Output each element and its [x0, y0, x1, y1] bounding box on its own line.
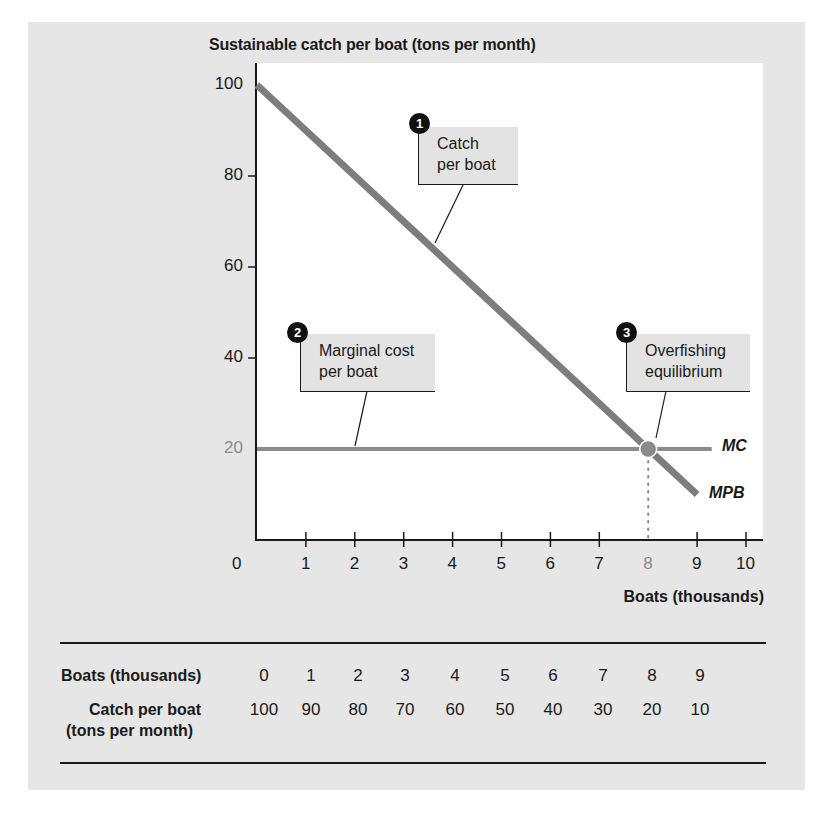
callout-1-line-1: Catch — [437, 133, 510, 154]
table-row-catch-sublabel: (tons per month) — [66, 722, 193, 740]
table-top-rule — [60, 642, 766, 644]
y-tick-label: 40 — [224, 347, 243, 367]
x-tick-label: 5 — [497, 554, 506, 574]
x-tick-label: 3 — [399, 554, 408, 574]
mc-label: MC — [722, 437, 747, 455]
callout-1-line-2: per boat — [437, 154, 510, 175]
callout-3-badge: 3 — [616, 322, 637, 343]
callout-2-badge: 2 — [287, 322, 308, 343]
table-cell-boats: 3 — [385, 666, 425, 686]
x-tick-label: 2 — [350, 554, 359, 574]
leader-line-1 — [435, 185, 463, 243]
table-row-boats-label: Boats (thousands) — [61, 667, 201, 685]
table-cell-boats: 2 — [338, 666, 378, 686]
table-cell-catch: 60 — [435, 700, 475, 720]
callout-3-line-2: equilibrium — [645, 361, 742, 382]
table-cell-boats: 8 — [632, 666, 672, 686]
table-cell-boats: 6 — [533, 666, 573, 686]
table-cell-boats: 1 — [291, 666, 331, 686]
x-tick-label: 1 — [301, 554, 310, 574]
x-tick-label: 4 — [448, 554, 457, 574]
table-cell-boats: 5 — [485, 666, 525, 686]
table-cell-catch: 30 — [583, 700, 623, 720]
callout-overfishing-equilibrium: Overfishing equilibrium — [626, 334, 750, 392]
callout-catch-per-boat: Catch per boat — [418, 127, 518, 185]
leader-line-2 — [355, 391, 367, 446]
x-tick-label: 0 — [232, 554, 241, 574]
table-cell-catch: 70 — [385, 700, 425, 720]
y-tick-label: 80 — [224, 165, 243, 185]
callout-marginal-cost: Marginal cost per boat — [300, 334, 435, 392]
x-tick-label: 10 — [736, 554, 755, 574]
y-axis-title: Sustainable catch per boat (tons per mon… — [209, 36, 536, 54]
table-cell-boats: 7 — [583, 666, 623, 686]
x-tick-label: 8 — [643, 554, 652, 574]
x-tick-label: 7 — [594, 554, 603, 574]
equilibrium-point — [640, 441, 657, 458]
table-row-catch-label: Catch per boat — [89, 701, 201, 719]
callout-1-badge: 1 — [409, 113, 430, 134]
table-cell-catch: 100 — [244, 700, 284, 720]
table-cell-boats: 0 — [244, 666, 284, 686]
table-cell-catch: 50 — [485, 700, 525, 720]
callout-3-line-1: Overfishing — [645, 340, 742, 361]
table-cell-catch: 80 — [338, 700, 378, 720]
y-tick-label: 60 — [224, 256, 243, 276]
leader-line-3 — [656, 391, 666, 438]
table-cell-catch: 10 — [680, 700, 720, 720]
table-bottom-rule — [60, 762, 766, 764]
y-tick-label: 100 — [215, 74, 243, 94]
y-ticks — [248, 176, 256, 358]
table-cell-catch: 40 — [533, 700, 573, 720]
x-tick-label: 6 — [545, 554, 554, 574]
table-cell-boats: 9 — [680, 666, 720, 686]
callout-2-line-1: Marginal cost — [319, 340, 427, 361]
mpb-label: MPB — [709, 484, 745, 502]
table-cell-catch: 20 — [632, 700, 672, 720]
table-cell-catch: 90 — [291, 700, 331, 720]
y-tick-label: 20 — [224, 438, 243, 458]
table-cell-boats: 4 — [435, 666, 475, 686]
x-tick-label: 9 — [692, 554, 701, 574]
callout-2-line-2: per boat — [319, 361, 427, 382]
x-axis-title: Boats (thousands) — [624, 588, 764, 606]
